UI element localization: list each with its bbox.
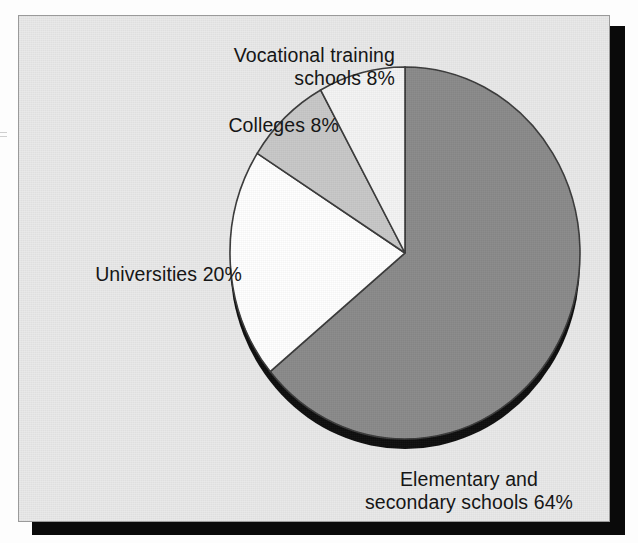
scanned-page: Vocational training schools 8% Colleges … — [0, 0, 638, 543]
pie-label-colleges: Colleges 8% — [139, 114, 339, 137]
scan-artifact-tick-bottom — [0, 136, 7, 137]
pie-label-elementary-and-secondary-schools: Elementary and secondary schools 64% — [339, 468, 599, 514]
pie-label-vocational-training-schools: Vocational training schools 8% — [167, 44, 395, 90]
chart-panel: Vocational training schools 8% Colleges … — [18, 15, 610, 522]
scan-artifact-tick-top — [0, 132, 7, 133]
pie-label-universities: Universities 20% — [49, 263, 242, 286]
